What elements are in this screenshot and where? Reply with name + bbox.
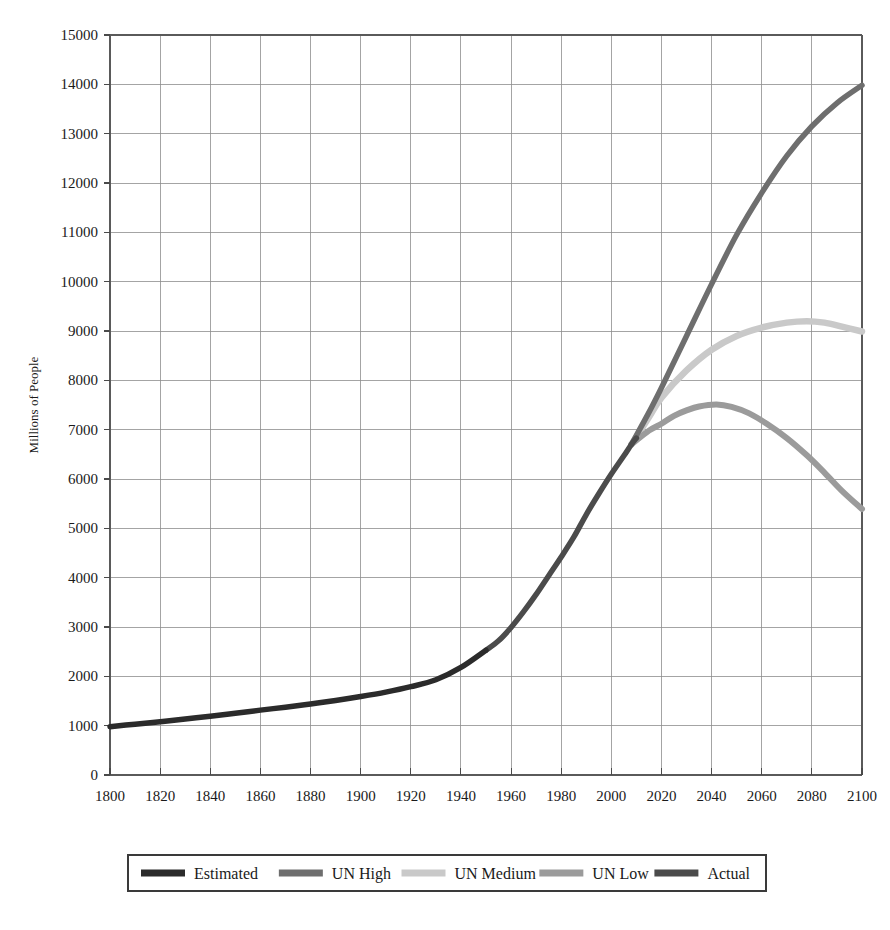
tick-label-y: 7000 bbox=[68, 422, 98, 438]
x-axis-tick-labels: 1800182018401860188019001920194019601980… bbox=[95, 788, 877, 804]
tick-label-x: 1860 bbox=[245, 788, 275, 804]
plot-background bbox=[110, 35, 862, 775]
tick-label-x: 1900 bbox=[346, 788, 376, 804]
tick-label-y: 9000 bbox=[68, 323, 98, 339]
legend-label-un-low: UN Low bbox=[592, 865, 649, 882]
tick-label-x: 1820 bbox=[145, 788, 175, 804]
tick-label-y: 12000 bbox=[61, 175, 99, 191]
legend-label-un-high: UN High bbox=[332, 865, 391, 883]
tick-label-x: 1980 bbox=[546, 788, 576, 804]
tick-label-x: 1960 bbox=[496, 788, 526, 804]
legend-label-estimated: Estimated bbox=[194, 865, 258, 882]
y-axis-tick-labels: 0100020003000400050006000700080009000100… bbox=[61, 27, 99, 783]
tick-label-y: 11000 bbox=[61, 224, 98, 240]
tick-label-x: 1940 bbox=[446, 788, 476, 804]
tick-label-x: 2080 bbox=[797, 788, 827, 804]
tick-label-y: 10000 bbox=[61, 274, 99, 290]
population-projection-chart: 0100020003000400050006000700080009000100… bbox=[0, 0, 890, 930]
tick-label-x: 2060 bbox=[747, 788, 777, 804]
tick-label-x: 2100 bbox=[847, 788, 877, 804]
tick-label-x: 1920 bbox=[396, 788, 426, 804]
tick-label-x: 1880 bbox=[296, 788, 326, 804]
tick-label-x: 2020 bbox=[646, 788, 676, 804]
y-axis-title: Millions of People bbox=[26, 356, 41, 453]
tick-label-x: 2040 bbox=[697, 788, 727, 804]
chart-canvas: 0100020003000400050006000700080009000100… bbox=[0, 0, 890, 930]
tick-label-y: 3000 bbox=[68, 619, 98, 635]
tick-label-y: 13000 bbox=[61, 126, 99, 142]
tick-label-x: 2000 bbox=[596, 788, 626, 804]
tick-label-y: 0 bbox=[91, 767, 99, 783]
tick-label-y: 8000 bbox=[68, 372, 98, 388]
tick-label-y: 6000 bbox=[68, 471, 98, 487]
tick-label-y: 2000 bbox=[68, 668, 98, 684]
tick-label-y: 14000 bbox=[61, 76, 99, 92]
tick-label-y: 4000 bbox=[68, 570, 98, 586]
tick-label-y: 5000 bbox=[68, 520, 98, 536]
legend-label-un-medium: UN Medium bbox=[455, 865, 537, 882]
tick-label-y: 1000 bbox=[68, 718, 98, 734]
tick-label-y: 15000 bbox=[61, 27, 99, 43]
chart-legend: EstimatedUN HighUN MediumUN LowActual bbox=[128, 855, 766, 891]
legend-label-actual: Actual bbox=[707, 865, 750, 882]
tick-label-x: 1800 bbox=[95, 788, 125, 804]
y-axis-tick-marks bbox=[104, 35, 110, 775]
tick-label-x: 1840 bbox=[195, 788, 225, 804]
